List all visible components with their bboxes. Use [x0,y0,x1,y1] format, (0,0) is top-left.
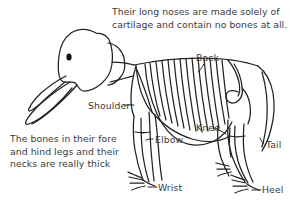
skull-outline [58,29,112,91]
rib [156,62,166,120]
scapula-front-edge [131,66,136,116]
label-tail: Tail [266,139,281,150]
hind-leg-inner-line [235,126,248,183]
hind-foot-far-toes [216,163,231,176]
eye [66,53,71,60]
rib [168,60,178,126]
rib-lines [150,58,229,132]
label-knee: Knee [196,122,220,133]
hind-leg-back-edge [243,124,253,182]
front-foot-toes [128,172,145,190]
pelvis-rear [242,88,250,124]
label-wrist: Wrist [158,182,182,193]
label-elbow: Elbow [155,134,183,145]
note-nose-cartilage: Their long noses are made solely of cart… [112,6,304,31]
label-back: Back [196,52,219,63]
front-leg-inner-line [141,118,149,182]
tail [262,72,267,147]
note-thick-bones: The bones in their fore and hind legs an… [10,133,138,171]
hind-foot-base [247,184,259,190]
front-leg-far [155,115,162,180]
hind-leg-far-back [229,128,231,157]
rib [162,61,172,123]
front-leg-back-edge [149,112,154,181]
rib [180,59,190,130]
toe [235,189,248,193]
rib [174,60,184,128]
toe [231,175,245,180]
leader-line-elbow [146,139,153,140]
toe [132,186,145,190]
neck-upper [112,62,134,65]
illustration-canvas: Their long noses are made solely of cart… [0,0,306,215]
hind-knee-joint [229,136,245,137]
label-shoulder: Shoulder [88,100,130,111]
label-heel: Heel [262,184,283,195]
elephant-skeleton-drawing [0,0,306,215]
